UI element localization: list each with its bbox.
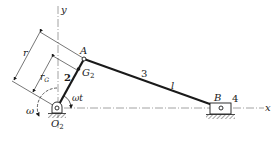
label-link-2: 2 bbox=[64, 72, 71, 83]
label-r: r bbox=[23, 47, 29, 58]
cg-G2 bbox=[77, 67, 81, 71]
label-omega: ω bbox=[26, 105, 34, 116]
dim-ext-top-rg bbox=[53, 56, 77, 70]
diagram-canvas: y x A B 4 3 l 2 G2 O2 r rG ω ωt bbox=[0, 0, 278, 143]
pin-A bbox=[82, 57, 86, 61]
label-point-A: A bbox=[79, 45, 87, 56]
label-x-axis: x bbox=[265, 102, 271, 113]
slider-crank-diagram: y x A B 4 3 l 2 G2 O2 r rG ω ωt bbox=[0, 0, 278, 143]
label-link-4: 4 bbox=[232, 93, 238, 104]
dim-ext-top-r bbox=[40, 32, 83, 58]
label-length-l: l bbox=[171, 80, 174, 91]
label-rG: rG bbox=[40, 72, 49, 83]
label-O2: O2 bbox=[51, 118, 64, 131]
pin-O2 bbox=[55, 106, 59, 110]
label-omega-t: ωt bbox=[72, 93, 83, 103]
label-y-axis: y bbox=[60, 4, 67, 15]
coupler-link-3 bbox=[84, 59, 221, 108]
label-G2: G2 bbox=[82, 67, 94, 80]
pin-B bbox=[219, 106, 223, 110]
dim-ext-bottom bbox=[12, 81, 56, 107]
slider-ground-hatch bbox=[206, 115, 235, 119]
label-point-B: B bbox=[213, 92, 221, 103]
angle-arc-omega-t bbox=[64, 96, 71, 108]
label-link-3: 3 bbox=[141, 68, 147, 79]
